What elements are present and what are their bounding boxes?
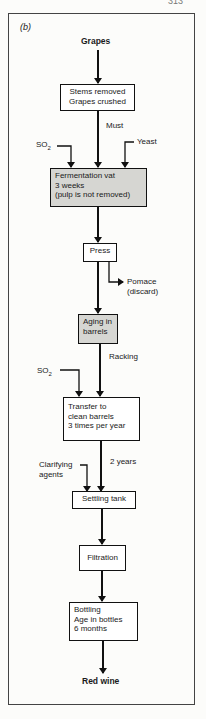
- edge-label-clarifying-agents: Clarifying agents: [39, 460, 72, 479]
- ferment-line3: (pulp is not removed): [55, 190, 142, 200]
- start-node-grapes: Grapes: [81, 37, 110, 47]
- arrow-so2-1: [57, 146, 71, 167]
- ferment-line1: Fermentation vat: [55, 171, 142, 181]
- process-fermentation-vat: Fermentation vat 3 weeks (pulp is not re…: [50, 168, 147, 207]
- arrow-clarifying: [80, 465, 87, 491]
- process-filtration: Filtration: [79, 545, 126, 571]
- edge-label-must: Must: [106, 121, 123, 131]
- transfer-line1: Transfer to: [68, 402, 135, 412]
- bottling-line2: Age in bottles: [74, 615, 133, 625]
- bottling-line3: 6 months: [74, 624, 133, 634]
- edge-label-so2-2: SO2: [37, 366, 52, 379]
- edge-label-pomace: Pomace (discard): [127, 277, 158, 296]
- edge-label-two-years: 2 years: [110, 457, 136, 467]
- process-aging-in-barrels: Aging in barrels: [78, 314, 118, 344]
- bottling-line1: Bottling: [74, 605, 133, 615]
- end-node-red-wine: Red wine: [82, 677, 119, 687]
- aging-line2: barrels: [83, 327, 113, 337]
- process-bottling: Bottling Age in bottles 6 months: [69, 602, 138, 641]
- process-press: Press: [83, 243, 117, 262]
- edge-label-racking: Racking: [109, 352, 138, 362]
- process-settling-tank: Settling tank: [72, 491, 136, 509]
- ferment-line2: 3 weeks: [55, 181, 142, 191]
- edge-label-so2-1: SO2: [36, 140, 51, 153]
- arrow-pomace: [109, 261, 123, 282]
- arrow-so2-2: [60, 370, 79, 396]
- arrow-yeast: [125, 142, 134, 167]
- transfer-line3: 3 times per year: [68, 421, 135, 431]
- process-crush: Stems removed Grapes crushed: [60, 84, 135, 111]
- edge-label-yeast: Yeast: [137, 137, 157, 147]
- aging-line1: Aging in: [83, 317, 113, 327]
- crush-line1: Stems removed: [65, 87, 130, 97]
- process-transfer-barrels: Transfer to clean barrels 3 times per ye…: [63, 397, 140, 441]
- transfer-line2: clean barrels: [68, 412, 135, 422]
- crush-line2: Grapes crushed: [65, 97, 130, 107]
